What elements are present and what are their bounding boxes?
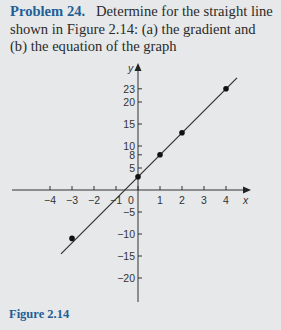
y-tick-label: 10	[123, 140, 135, 152]
data-point	[135, 174, 141, 180]
y-axis-label: y	[127, 62, 134, 74]
x-tick-label: 0	[128, 194, 134, 206]
x-axis-arrow-icon	[243, 187, 251, 194]
x-tick-label: −3	[66, 194, 78, 206]
y-tick-label: −5	[123, 206, 135, 218]
x-tick-label: −2	[88, 194, 100, 206]
x-tick-label: 3	[201, 194, 207, 206]
x-tick-label: 1	[157, 194, 163, 206]
y-tick-label: 23	[123, 83, 135, 95]
data-point	[157, 152, 163, 158]
data-point	[179, 130, 185, 136]
y-tick-label: −10	[117, 228, 135, 240]
y-tick-label: 5	[129, 162, 135, 174]
x-tick-label: −4	[44, 194, 56, 206]
y-tick-label: 15	[123, 118, 135, 130]
figure-caption: Figure 2.14	[9, 307, 69, 322]
x-tick-label: 2	[179, 194, 185, 206]
data-point	[223, 86, 229, 92]
line-chart: xy−4−3−2−101234−20−15−10−55810152023	[0, 0, 281, 330]
y-tick-label: −20	[117, 272, 135, 284]
data-line	[61, 78, 237, 254]
data-point	[69, 236, 75, 242]
x-tick-label: 4	[223, 194, 229, 206]
x-axis-label: x	[242, 194, 249, 206]
x-tick-label: −1	[110, 194, 122, 206]
y-axis-arrow-icon	[135, 63, 142, 71]
y-tick-label: −15	[117, 250, 135, 262]
y-tick-label: 20	[123, 96, 135, 108]
